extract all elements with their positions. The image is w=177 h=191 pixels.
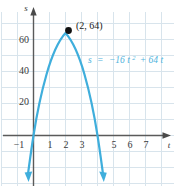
x-tick-label-neg1: −1 [14,139,25,150]
vertex-point-marker [65,27,72,34]
x-tick-label-7: 7 [144,139,149,150]
equation-variable-2: t [160,55,163,65]
x-tick-label-1: 1 [48,139,53,150]
equation-variable-1: t [127,55,130,65]
equation-exponent: 2 [132,54,136,61]
y-axis-label: s [24,3,28,13]
equation-lhs: s [88,55,92,65]
equation-plus-term: + 64 [140,55,159,65]
x-axis-label: t [168,140,171,150]
graph-figure: s t 20 40 60 −1 1 2 3 5 6 7 (2, [0,0,177,191]
equation-equals: = [97,55,103,65]
y-tick-label-40: 40 [19,65,29,76]
curve-right-arrowhead [99,172,107,182]
y-tick-label-60: 60 [19,34,29,45]
parabola-plot: s t 20 40 60 −1 1 2 3 5 6 7 (2, [0,0,177,191]
x-tick-label-3: 3 [80,139,85,150]
x-tick-label-2: 2 [64,139,69,150]
curve-left-arrowhead [25,171,33,182]
x-tick-label-5: 5 [112,139,117,150]
equation-label: s = −16 t 2 + 64 t [88,52,163,66]
equation-coefficient: −16 [109,55,125,65]
y-tick-labels: 20 40 60 [19,34,29,107]
vertex-point-label: (2, 64) [76,20,103,32]
y-tick-label-20: 20 [19,96,29,107]
y-axis-arrowhead [30,7,36,16]
x-axis-arrowhead [163,132,172,138]
x-tick-label-6: 6 [128,139,133,150]
